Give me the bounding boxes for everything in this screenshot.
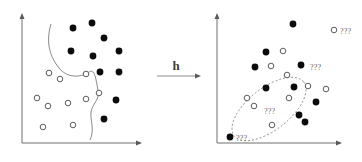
data-point-open xyxy=(65,100,71,106)
data-point-open xyxy=(331,27,337,33)
query-label-top-right: ??? xyxy=(340,27,352,36)
right-y-axis-arrowhead xyxy=(215,13,220,19)
data-point-open xyxy=(46,70,52,76)
data-point-open xyxy=(83,96,89,102)
data-point-open xyxy=(269,122,275,128)
data-point-open xyxy=(34,95,40,101)
data-point-open xyxy=(45,103,51,109)
right-panel: ??? ??? ??? ??? xyxy=(215,13,352,153)
data-point-filled xyxy=(291,84,298,91)
left-axis-lines xyxy=(22,15,140,143)
query-label-bottom-left: ??? xyxy=(236,134,248,143)
right-x-axis-arrowhead xyxy=(336,141,342,146)
data-point-open xyxy=(268,63,274,69)
data-point-open xyxy=(305,83,311,89)
data-point-open xyxy=(57,76,63,82)
data-point-open xyxy=(323,86,329,92)
data-point-open xyxy=(96,90,102,96)
data-point-filled xyxy=(101,35,108,42)
data-point-filled xyxy=(113,97,120,104)
data-point-filled xyxy=(68,48,75,55)
left-x-axis-arrowhead xyxy=(136,141,142,146)
data-point-filled xyxy=(227,134,234,141)
data-point-filled xyxy=(97,69,104,76)
data-point-filled xyxy=(90,53,97,60)
data-point-open xyxy=(83,71,89,77)
data-point-filled xyxy=(313,99,320,106)
data-point-filled xyxy=(296,112,303,119)
data-point-open xyxy=(244,95,250,101)
figure-root: h xyxy=(0,0,362,162)
data-point-open xyxy=(40,124,46,130)
data-point-filled xyxy=(290,21,297,28)
data-point-filled xyxy=(298,62,305,69)
data-point-open xyxy=(286,95,292,101)
data-point-open xyxy=(284,72,290,78)
data-point-filled xyxy=(263,49,270,56)
right-negative-points xyxy=(244,27,337,128)
left-positive-points xyxy=(68,20,123,123)
mapping-arrow: h xyxy=(157,58,201,79)
left-y-axis-arrowhead xyxy=(20,13,25,19)
data-point-filled xyxy=(252,64,259,71)
mapping-arrow-head xyxy=(195,74,201,79)
data-point-filled xyxy=(116,69,123,76)
data-point-filled xyxy=(263,85,270,92)
data-point-open xyxy=(280,48,286,54)
query-label-in-cluster: ??? xyxy=(264,107,276,116)
left-panel xyxy=(20,13,143,146)
mapping-function-label: h xyxy=(172,58,180,73)
data-point-filled xyxy=(70,25,77,32)
right-panel-axes xyxy=(215,13,343,146)
data-point-filled xyxy=(302,119,309,126)
query-label-mid-right: ??? xyxy=(310,63,322,72)
data-point-open xyxy=(70,122,76,128)
data-point-filled xyxy=(116,48,123,55)
diagram-canvas: h xyxy=(0,0,362,162)
data-point-filled xyxy=(101,116,108,123)
left-panel-axes xyxy=(20,13,143,146)
data-point-filled xyxy=(89,20,96,27)
right-axis-lines xyxy=(217,15,340,143)
data-point-open xyxy=(251,103,257,109)
